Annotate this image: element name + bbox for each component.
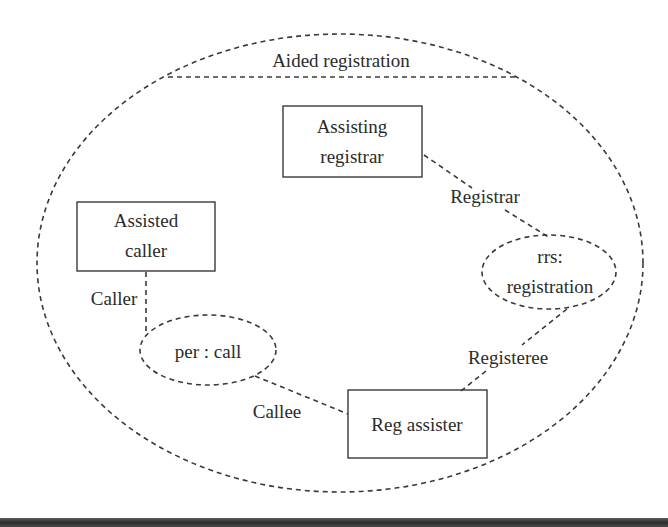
rrs-registration-line-2: registration <box>507 272 594 302</box>
caller-role-label: Caller <box>91 289 137 308</box>
bottom-rule <box>0 518 668 527</box>
assisting-registrar-line-1: Assisting <box>317 112 388 142</box>
assisted-caller-label: Assisted caller <box>114 206 178 266</box>
assisting-registrar-line-2: registrar <box>317 142 388 172</box>
assisted-caller-line-2: caller <box>114 236 178 266</box>
reg-assister-label: Reg assister <box>371 415 462 434</box>
assisting-registrar-label: Assisting registrar <box>317 112 388 172</box>
rrs-registration-line-1: rrs: <box>507 242 594 272</box>
registeree-role-label: Registeree <box>468 348 548 367</box>
rrs-registration-label: rrs: registration <box>507 242 594 302</box>
collaboration-title: Aided registration <box>272 51 410 70</box>
assisted-caller-line-1: Assisted <box>114 206 178 236</box>
callee-role-label: Callee <box>253 402 302 421</box>
registrar-role-label: Registrar <box>450 187 520 206</box>
per-call-label: per : call <box>175 342 241 361</box>
